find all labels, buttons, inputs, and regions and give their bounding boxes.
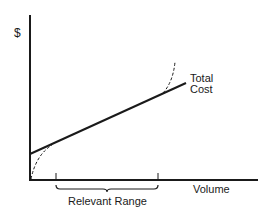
cost-behavior-diagram xyxy=(0,0,271,215)
total-cost-line xyxy=(30,83,186,154)
total-cost-label: Total Cost xyxy=(190,73,213,95)
relevant-range-bracket xyxy=(56,185,158,192)
x-axis-label: Volume xyxy=(193,184,230,195)
actual-cost-curve-lower xyxy=(31,145,52,179)
relevant-range-label: Relevant Range xyxy=(68,196,147,207)
y-axis-label: $ xyxy=(14,28,21,39)
total-cost-label-line2: Cost xyxy=(190,84,213,95)
